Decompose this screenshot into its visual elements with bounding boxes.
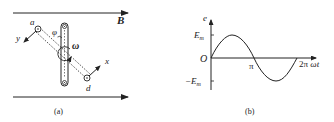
caption-b: (b) <box>245 107 255 116</box>
caption-a: (a) <box>54 107 63 116</box>
label-em-negative: −Em <box>185 76 202 87</box>
label-e-axis: e <box>203 13 207 23</box>
label-axis-y: y <box>15 33 20 43</box>
label-two-pi: 2π ωt <box>299 59 320 69</box>
label-em-positive: Em <box>193 30 205 41</box>
figure-b: e O Em −Em π 2π ωt (b) <box>185 13 320 116</box>
label-origin: O <box>200 53 207 64</box>
label-pi: π <box>249 61 254 71</box>
label-axis-x: x <box>104 56 109 66</box>
figure-a: B a d y x φ ω (a) <box>13 13 128 116</box>
field-label-b: B <box>116 14 124 26</box>
label-omega: ω <box>72 40 79 51</box>
y-direction-arrow <box>24 31 36 42</box>
label-point-d: d <box>86 83 91 93</box>
coil-edge-upper <box>40 28 90 74</box>
x-direction-arrow <box>89 66 100 76</box>
label-point-a: a <box>30 17 35 27</box>
label-angle-phi: φ <box>52 27 57 37</box>
physics-diagram: B a d y x φ ω (a) e O Em −Em π 2π ωt (b) <box>0 0 334 122</box>
